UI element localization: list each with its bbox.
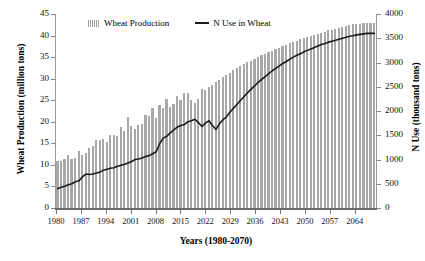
y-axis-right-tick <box>377 14 381 15</box>
x-axis-tick-label: 2008 <box>147 216 164 226</box>
x-axis-tick <box>280 210 281 214</box>
x-axis-tick <box>205 210 206 214</box>
x-axis-tick <box>330 210 331 214</box>
x-axis-line <box>55 208 377 210</box>
x-axis-tick <box>355 210 356 214</box>
x-axis-tick <box>56 210 57 214</box>
y-axis-left-tick <box>51 208 55 209</box>
x-axis-tick <box>81 210 82 214</box>
y-axis-left-tick <box>51 143 55 144</box>
y-axis-left-tick-label: 10 <box>25 160 49 169</box>
y-axis-right-tick-label: 500 <box>385 179 399 188</box>
y-axis-left-tick <box>51 36 55 37</box>
y-axis-right-tick-label: 4000 <box>385 9 403 18</box>
y-axis-left-tick <box>51 100 55 101</box>
chart-figure: Wheat Production (million tons) N Use (t… <box>0 0 425 261</box>
y-axis-left-tick-label: 30 <box>25 74 49 83</box>
y-axis-left-tick <box>51 122 55 123</box>
x-axis-tick-label: 2036 <box>247 216 264 226</box>
legend-item-wheat-production: Wheat Production <box>88 18 169 28</box>
y-axis-right-tick-label: 3000 <box>385 58 403 67</box>
legend-label-wheat-production: Wheat Production <box>104 18 169 28</box>
x-axis-tick <box>106 210 107 214</box>
y-axis-right-tick <box>377 87 381 88</box>
x-axis-tick <box>305 210 306 214</box>
legend-item-n-use: N Use in Wheat <box>195 18 271 28</box>
y-axis-right-tick <box>377 184 381 185</box>
plot-area <box>56 14 376 208</box>
y-axis-left-tick <box>51 79 55 80</box>
y-axis-right-title: N Use (thousand tons) <box>411 32 421 182</box>
x-axis-tick-label: 2001 <box>122 216 139 226</box>
y-axis-left-tick-label: 15 <box>25 138 49 147</box>
x-axis-tick <box>255 210 256 214</box>
y-axis-right-tick <box>377 135 381 136</box>
y-axis-right-tick <box>377 208 381 209</box>
y-axis-left-tick <box>51 57 55 58</box>
y-axis-right-tick-label: 3500 <box>385 33 403 42</box>
y-axis-right-tick-label: 1000 <box>385 155 403 164</box>
y-axis-right-tick-label: 2500 <box>385 82 403 91</box>
x-axis-tick-label: 2050 <box>296 216 313 226</box>
x-axis-tick <box>180 210 181 214</box>
chart-legend: Wheat Production N Use in Wheat <box>88 18 271 28</box>
y-axis-left-tick-label: 40 <box>25 31 49 40</box>
y-axis-left-tick-label: 45 <box>25 9 49 18</box>
y-axis-right-tick <box>377 160 381 161</box>
y-axis-left-tick-label: 20 <box>25 117 49 126</box>
y-axis-right-tick <box>377 63 381 64</box>
y-axis-left-tick <box>51 14 55 15</box>
y-axis-left-tick <box>51 186 55 187</box>
x-axis-tick <box>131 210 132 214</box>
y-axis-right-tick <box>377 111 381 112</box>
y-axis-left-tick-label: 25 <box>25 95 49 104</box>
x-axis-tick-label: 2022 <box>197 216 214 226</box>
x-axis-tick-label: 1980 <box>48 216 65 226</box>
x-axis-tick <box>230 210 231 214</box>
x-axis-tick-label: 2043 <box>272 216 289 226</box>
y-axis-left-tick-label: 35 <box>25 52 49 61</box>
x-axis-tick-label: 2015 <box>172 216 189 226</box>
x-axis-tick <box>156 210 157 214</box>
x-axis-tick-label: 1994 <box>97 216 114 226</box>
y-axis-left-tick-label: 0 <box>25 203 49 212</box>
line-swatch-icon <box>195 22 209 24</box>
y-axis-right-tick-label: 1500 <box>385 130 403 139</box>
x-axis-tick-label: 1987 <box>72 216 89 226</box>
y-axis-left-tick-label: 5 <box>25 181 49 190</box>
x-axis-tick-label: 2029 <box>222 216 239 226</box>
y-axis-right-tick <box>377 38 381 39</box>
x-axis-tick-label: 2057 <box>321 216 338 226</box>
y-axis-left-tick <box>51 165 55 166</box>
x-axis-title: Years (1980-2070) <box>56 236 376 246</box>
legend-label-n-use: N Use in Wheat <box>213 18 271 28</box>
line-series-n-use <box>56 14 376 208</box>
x-axis-tick-label: 2064 <box>346 216 363 226</box>
y-axis-right-tick-label: 0 <box>385 203 390 212</box>
y-axis-right-tick-label: 2000 <box>385 106 403 115</box>
bar-swatch-icon <box>88 20 100 27</box>
